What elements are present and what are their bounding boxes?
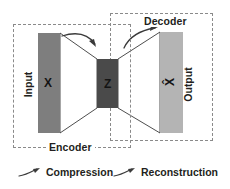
legend-label-compression: Compression [46, 166, 113, 178]
latent-block-value: Z [104, 78, 111, 90]
legend-item-reconstruction: Reconstruction [113, 165, 218, 179]
legend-label-reconstruction: Reconstruction [141, 166, 218, 178]
decoder-group-label: Decoder [141, 16, 190, 27]
input-block-value: X [44, 77, 52, 89]
curved-arrow-icon [18, 165, 44, 179]
diagram-legend: Compression Reconstruction [0, 163, 230, 187]
output-side-label: Output [183, 55, 194, 115]
curved-arrow-icon [113, 165, 139, 179]
encoder-group-label: Encoder [46, 142, 95, 153]
output-block-value: X̂ [164, 78, 176, 86]
input-side-label: Input [23, 55, 34, 115]
autoencoder-diagram: X Z X̂ Input Output Encoder Decoder Comp… [0, 0, 230, 189]
legend-item-compression: Compression [18, 165, 113, 179]
